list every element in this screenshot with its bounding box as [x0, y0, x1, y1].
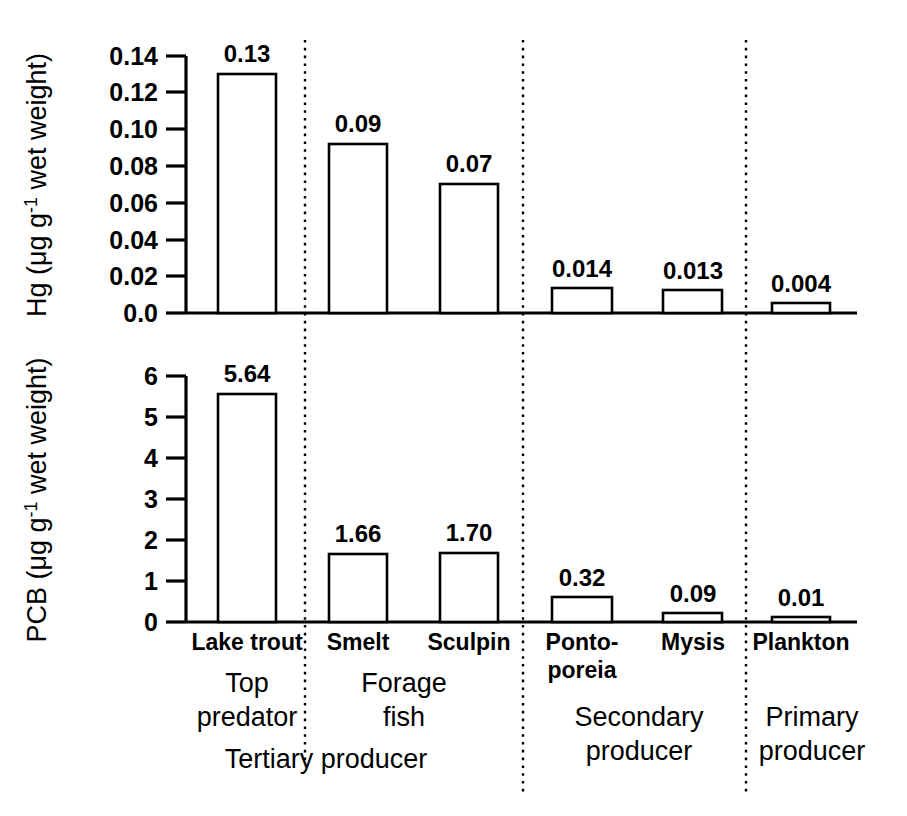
x-category-labels: Lake trout Smelt Sculpin Ponto- poreia M… — [191, 629, 849, 683]
value-pcb-plankton: 0.01 — [778, 584, 825, 611]
panel-pcb: PCB (μg g-1 wet weight) 6 5 4 — [21, 357, 857, 642]
value-pcb-lake-trout: 5.64 — [224, 360, 271, 387]
bar-hg-sculpin — [440, 184, 498, 313]
value-pcb-sculpin: 1.70 — [446, 519, 493, 546]
catlabel-sculpin-line1: Sculpin — [427, 629, 510, 655]
value-pcb-mysis: 0.09 — [670, 580, 717, 607]
group-top-predator-line2: predator — [197, 702, 298, 732]
value-hg-plankton: 0.004 — [771, 270, 832, 297]
value-hg-smelt: 0.09 — [335, 110, 382, 137]
bar-pcb-lake-trout — [218, 394, 276, 622]
pcb-ticklabel-6: 6 — [144, 362, 158, 390]
hg-unit-rest-text: wet weight) — [22, 53, 52, 197]
pcb-analyte-text: PCB — [22, 587, 52, 643]
svg-text:PCB (μg g-1 wet weight): PCB (μg g-1 wet weight) — [21, 357, 52, 642]
pcb-unit-rest-text: wet weight) — [22, 357, 52, 501]
group-forage-fish-line2: fish — [383, 702, 425, 732]
bar-pcb-sculpin — [440, 553, 498, 622]
hg-ticklabel-3: 0.06 — [109, 189, 158, 217]
pcb-axis-title: PCB (μg g-1 wet weight) — [21, 357, 52, 642]
hg-ticklabel-6: 0.12 — [109, 78, 158, 106]
value-hg-lake-trout: 0.13 — [224, 40, 271, 67]
catlabel-smelt-line1: Smelt — [327, 629, 390, 655]
pcb-ticklabel-4: 4 — [144, 444, 158, 472]
pcb-unit-open-text: (μg g — [22, 517, 52, 579]
bar-pcb-mysis — [663, 613, 722, 622]
bar-hg-plankton — [772, 303, 830, 313]
hg-ticklabel-2: 0.04 — [109, 226, 158, 254]
hg-y-ticks — [166, 56, 186, 313]
catlabel-mysis-line1: Mysis — [661, 629, 725, 655]
hg-unit-open-text: (μg g — [22, 213, 52, 275]
bar-hg-pontoporeia — [552, 288, 612, 313]
pcb-ticklabel-3: 3 — [144, 485, 158, 513]
figure-root: Hg (μg g-1 wet weight) 0.14 0 — [0, 0, 907, 816]
value-pcb-pontoporeia: 0.32 — [559, 564, 606, 591]
pcb-y-tick-labels: 6 5 4 3 2 1 0 — [144, 362, 158, 636]
catlabel-lake-trout-line1: Lake trout — [191, 629, 303, 655]
group-primary-producer-line1: Primary — [766, 702, 859, 732]
hg-ticklabel-1: 0.02 — [109, 262, 158, 290]
catlabel-pontoporeia-line1: Ponto- — [546, 629, 619, 655]
value-hg-sculpin: 0.07 — [446, 150, 493, 177]
catlabel-pontoporeia-line2: poreia — [547, 657, 616, 683]
catlabel-plankton-line1: Plankton — [752, 629, 849, 655]
pcb-unit-exponent-text: -1 — [21, 501, 41, 517]
hg-ticklabel-5: 0.10 — [109, 115, 158, 143]
group-primary-producer-line2: producer — [759, 736, 866, 766]
hg-axis-title: Hg (μg g-1 wet weight) — [21, 53, 52, 317]
hg-y-tick-labels: 0.14 0.12 0.10 0.08 0.06 0.04 0.02 0.0 — [109, 42, 158, 327]
hg-ticklabel-7: 0.14 — [109, 42, 158, 70]
pcb-ticklabel-0: 0 — [144, 608, 158, 636]
svg-text:Hg (μg g-1 wet weight): Hg (μg g-1 wet weight) — [21, 53, 52, 317]
hg-ticklabel-0: 0.0 — [123, 299, 158, 327]
pcb-ticklabel-5: 5 — [144, 403, 158, 431]
pcb-y-ticks — [166, 376, 186, 622]
hg-unit-exponent-text: -1 — [21, 197, 41, 213]
bar-hg-mysis — [663, 290, 722, 313]
hg-analyte-text: Hg — [22, 283, 52, 318]
pcb-ticklabel-1: 1 — [144, 567, 158, 595]
group-top-predator-line1: Top — [225, 668, 269, 698]
hg-ticklabel-4: 0.08 — [109, 152, 158, 180]
bar-hg-lake-trout — [218, 74, 276, 313]
food-web-contaminant-chart: Hg (μg g-1 wet weight) 0.14 0 — [0, 0, 907, 816]
group-secondary-producer-line2: producer — [586, 736, 693, 766]
bar-pcb-smelt — [329, 554, 387, 622]
value-hg-pontoporeia: 0.014 — [552, 255, 613, 282]
group-secondary-producer-line1: Secondary — [574, 702, 704, 732]
tertiary-producer-span-label: Tertiary producer — [225, 744, 428, 774]
group-forage-fish-line1: Forage — [361, 668, 447, 698]
bar-hg-smelt — [329, 144, 387, 313]
hg-value-labels: 0.13 0.09 0.07 0.014 0.013 0.004 — [224, 40, 832, 297]
pcb-ticklabel-2: 2 — [144, 526, 158, 554]
panel-hg: Hg (μg g-1 wet weight) 0.14 0 — [21, 40, 857, 327]
hg-bars — [218, 74, 830, 313]
bar-pcb-pontoporeia — [552, 597, 612, 622]
bar-pcb-plankton — [772, 617, 830, 622]
value-hg-mysis: 0.013 — [663, 257, 723, 284]
value-pcb-smelt: 1.66 — [335, 520, 382, 547]
